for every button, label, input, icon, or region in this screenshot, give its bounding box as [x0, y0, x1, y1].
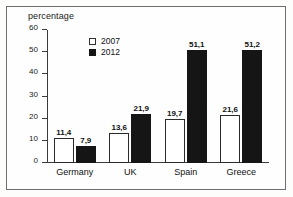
- bar-greece-2012: [242, 50, 262, 163]
- x-axis-label-spain: Spain: [158, 167, 214, 177]
- bar-germany-2012: [76, 146, 96, 164]
- bar-value-label: 19,7: [161, 109, 189, 118]
- y-axis-tick: 30: [42, 96, 47, 97]
- y-axis-tick-label: 50: [29, 45, 38, 54]
- bar-greece-2007: [220, 115, 240, 163]
- y-axis-tick-label: 30: [29, 90, 38, 99]
- x-axis-label-uk: UK: [103, 167, 159, 177]
- bar-value-label: 7,9: [72, 136, 100, 145]
- bar-spain-2007: [165, 119, 185, 163]
- y-axis-tick-label: 10: [29, 134, 38, 143]
- y-axis-tick: 10: [42, 140, 47, 141]
- y-axis-tick: 60: [42, 29, 47, 30]
- y-axis-tick: 0: [42, 162, 47, 163]
- y-axis-line: [47, 30, 48, 163]
- y-axis-tick-label: 20: [29, 112, 38, 121]
- bar-uk-2012: [131, 114, 151, 163]
- x-axis-label-germany: Germany: [47, 167, 103, 177]
- chart-figure: percentage 2007 2012 0102030405060 11,47…: [0, 0, 293, 197]
- plot-area: 0102030405060 11,47,913,621,919,751,121,…: [47, 30, 269, 163]
- y-axis-tick-label: 0: [34, 156, 38, 165]
- y-axis-tick: 50: [42, 51, 47, 52]
- y-axis-tick-label: 60: [29, 23, 38, 32]
- bar-value-label: 21,9: [127, 104, 155, 113]
- bar-value-label: 21,6: [216, 105, 244, 114]
- bar-uk-2007: [109, 133, 129, 163]
- y-axis-tick: 40: [42, 73, 47, 74]
- bar-value-label: 13,6: [105, 123, 133, 132]
- bar-germany-2007: [54, 138, 74, 163]
- y-axis-tick: 20: [42, 118, 47, 119]
- chart-title: percentage: [28, 11, 74, 21]
- bar-value-label: 51,2: [238, 40, 266, 49]
- y-axis-tick-label: 40: [29, 67, 38, 76]
- bar-value-label: 51,1: [183, 40, 211, 49]
- x-axis-label-greece: Greece: [214, 167, 270, 177]
- bar-spain-2012: [187, 50, 207, 163]
